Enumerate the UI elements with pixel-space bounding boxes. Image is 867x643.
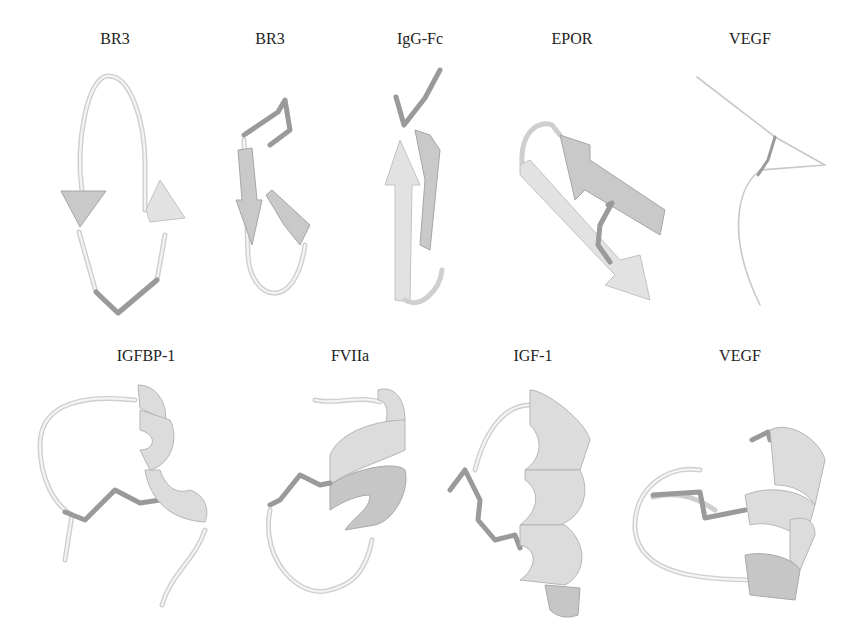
structure-vegf-helix xyxy=(635,427,825,600)
structure-fviia xyxy=(268,389,406,592)
structure-illustrations xyxy=(0,0,867,643)
structure-igf-1 xyxy=(450,390,590,617)
structure-br3-hairpin xyxy=(236,100,310,293)
structure-br3-loop xyxy=(61,76,185,313)
structure-igg-fc xyxy=(385,70,442,303)
structure-vegf-coil xyxy=(697,77,825,305)
structure-epor xyxy=(520,124,665,300)
structure-igfbp-1 xyxy=(40,385,207,605)
